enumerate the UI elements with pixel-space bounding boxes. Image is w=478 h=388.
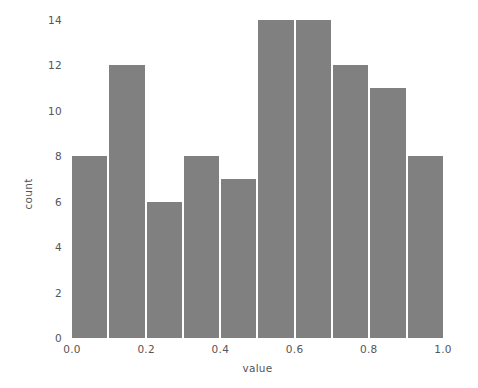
histogram-bar: [183, 156, 220, 338]
y-axis-tick-labels: 02468101214: [0, 0, 72, 388]
y-axis-tick-label: 0: [55, 332, 62, 344]
y-axis-tick-label: 6: [55, 196, 62, 208]
histogram-bar: [407, 156, 443, 338]
histogram-bars: [72, 20, 443, 338]
plot-area: [72, 20, 443, 338]
x-axis-tick-label: 0.6: [286, 343, 304, 355]
x-axis-tick-label: 0.4: [212, 343, 230, 355]
y-axis-tick-label: 4: [55, 241, 62, 253]
histogram-bar: [72, 156, 108, 338]
y-axis-tick-label: 8: [55, 150, 62, 162]
histogram-bar: [220, 179, 257, 338]
y-axis-tick-label: 2: [55, 287, 62, 299]
y-axis-tick-label: 12: [48, 59, 62, 71]
x-axis-tick-labels: 0.00.20.40.60.81.0: [72, 343, 443, 359]
y-axis-tick-label: 14: [48, 14, 62, 26]
x-axis-tick-label: 0.8: [360, 343, 378, 355]
x-axis-tick-label: 1.0: [434, 343, 452, 355]
x-axis-title: value: [72, 362, 443, 374]
y-axis-title: count: [22, 178, 34, 209]
x-axis-tick-label: 0.0: [63, 343, 81, 355]
y-axis-tick-label: 10: [48, 105, 62, 117]
histogram-bar: [295, 20, 332, 338]
histogram-bar: [332, 65, 369, 338]
histogram-bar: [146, 202, 183, 338]
x-axis-tick-label: 0.2: [137, 343, 155, 355]
histogram-figure: 02468101214 count 0.00.20.40.60.81.0 val…: [0, 0, 478, 388]
histogram-bar: [257, 20, 294, 338]
histogram-bar: [369, 88, 406, 338]
histogram-bar: [108, 65, 145, 338]
